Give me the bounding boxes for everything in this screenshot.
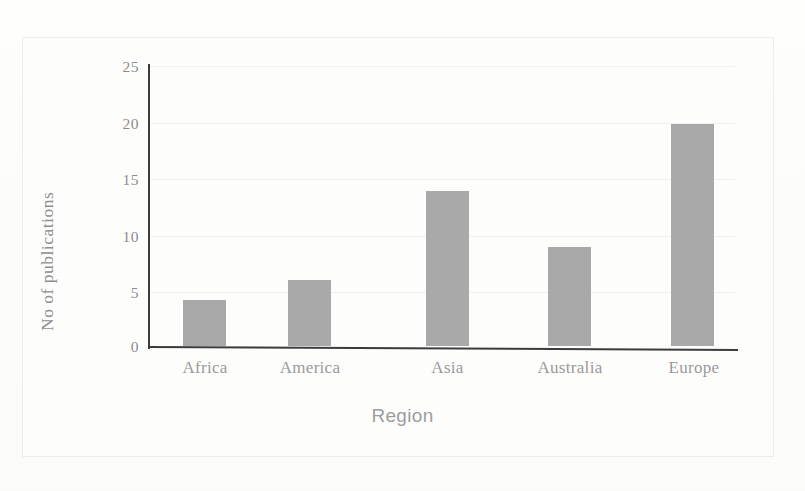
x-tick-label-europe: Europe [648, 359, 740, 378]
bar-chart: 25 20 15 10 5 0 Africa America Asia Aust… [0, 0, 805, 491]
y-tick-label-25: 25 [95, 59, 139, 75]
gridline-25 [150, 66, 735, 67]
x-tick-label-asia: Asia [405, 359, 490, 378]
bar-asia[interactable] [426, 191, 469, 346]
x-tick-label-africa: Africa [160, 359, 250, 378]
x-tick-label-america: America [260, 359, 360, 378]
bar-europe[interactable] [671, 124, 714, 346]
x-tick-label-australia: Australia [516, 359, 624, 378]
gridline-20 [150, 123, 735, 124]
x-axis-line [148, 346, 738, 351]
y-tick-label-5: 5 [95, 285, 139, 301]
bar-africa[interactable] [183, 300, 226, 346]
y-axis-title: No of publications [37, 192, 58, 331]
gridline-15 [150, 179, 735, 180]
x-axis-title: Region [0, 405, 805, 427]
y-axis-line [148, 64, 150, 349]
y-tick-label-20: 20 [95, 116, 139, 132]
bar-australia[interactable] [548, 247, 591, 346]
y-tick-label-10: 10 [95, 229, 139, 245]
y-tick-label-15: 15 [95, 172, 139, 188]
bar-america[interactable] [288, 280, 331, 346]
y-tick-label-0: 0 [95, 339, 139, 355]
